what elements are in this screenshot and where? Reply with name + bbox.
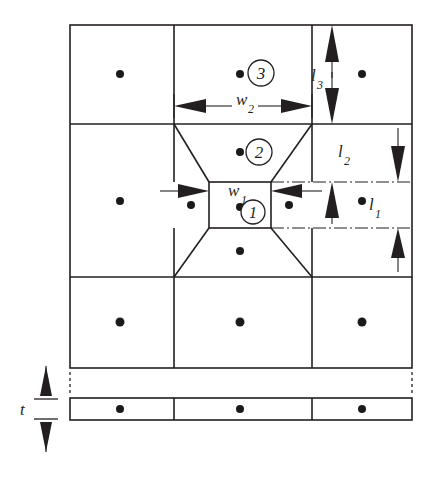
region-1-label: 1 bbox=[249, 204, 257, 221]
dimension-l2-subscript: 2 bbox=[344, 154, 350, 168]
dimension-l3: l 3 bbox=[311, 25, 339, 124]
unit-cell-diagram: .solid { stroke: #231f20; stroke-width: … bbox=[0, 0, 432, 480]
dimension-w2-label: w bbox=[236, 90, 248, 109]
region-marker-3: 3 bbox=[248, 60, 274, 86]
dimension-w1: w 1 bbox=[160, 181, 322, 207]
dimension-w2: w 2 bbox=[174, 90, 312, 118]
dimension-w1-subscript: 1 bbox=[241, 193, 247, 207]
dimension-l2-label: l bbox=[338, 142, 343, 161]
dimension-l2: l 2 bbox=[338, 128, 405, 182]
dimension-l3-subscript: 3 bbox=[316, 78, 323, 92]
region-2-label: 2 bbox=[255, 143, 264, 162]
dimension-w1-label: w bbox=[228, 181, 240, 200]
dimension-l1: l 1 bbox=[325, 182, 405, 272]
figure-container: .solid { stroke: #231f20; stroke-width: … bbox=[0, 0, 432, 480]
node-dots bbox=[116, 70, 367, 413]
dimension-l3-label: l bbox=[311, 66, 316, 85]
dimension-t-label: t bbox=[20, 400, 26, 419]
dimension-t: t bbox=[20, 366, 58, 452]
region-3-label: 3 bbox=[256, 64, 266, 83]
dimension-l1-label: l bbox=[369, 195, 374, 214]
dimension-l1-subscript: 1 bbox=[375, 207, 381, 221]
dimension-w2-subscript: 2 bbox=[248, 102, 254, 116]
region-marker-2: 2 bbox=[246, 139, 272, 165]
